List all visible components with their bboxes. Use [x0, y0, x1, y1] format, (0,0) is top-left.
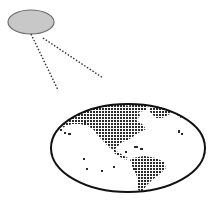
beam-line-left — [31, 34, 58, 90]
beam-line-right — [43, 38, 103, 78]
atlantic-island — [178, 130, 180, 133]
beam-lines — [31, 34, 103, 90]
satellite-ellipse — [8, 10, 54, 34]
diagram-canvas — [0, 0, 217, 206]
atlantic-island — [181, 133, 183, 135]
world-map-globe — [51, 102, 205, 192]
caribbean-island — [140, 148, 143, 150]
caribbean-island — [134, 146, 138, 148]
